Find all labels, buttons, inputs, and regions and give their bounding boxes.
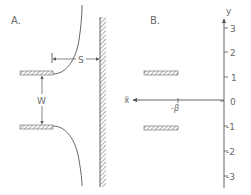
dimension-w: W <box>37 76 46 124</box>
svg-text:3: 3 <box>230 24 236 34</box>
svg-text:-3: -3 <box>226 172 235 182</box>
panel-a: A. S W <box>11 5 106 187</box>
upper-plate-a <box>20 71 53 75</box>
svg-text:0: 0 <box>230 97 236 107</box>
panel-b: B. y 3 2 1 0 -1 -2 -3 x̃ -β <box>124 6 237 188</box>
lower-plate-a <box>20 125 53 129</box>
dimension-w-label: W <box>37 96 46 106</box>
x-axis-label: x̃ <box>124 95 130 105</box>
wall <box>100 17 106 187</box>
panel-b-label: B. <box>150 15 160 26</box>
y-axis-label: y <box>226 6 232 16</box>
panel-a-label: A. <box>11 15 21 26</box>
diagram-canvas: A. S W B. y <box>0 0 251 195</box>
lower-plate-b <box>144 126 178 130</box>
upper-plate-b <box>144 71 178 75</box>
svg-text:2: 2 <box>230 48 236 58</box>
lower-free-streamline <box>53 126 82 186</box>
dimension-s-label: S <box>78 55 84 65</box>
svg-text:1: 1 <box>231 73 237 83</box>
svg-text:-1: -1 <box>226 122 235 132</box>
x-tick-beta-label: -β <box>171 104 179 113</box>
svg-text:-2: -2 <box>226 147 235 157</box>
y-tick-labels: 3 2 1 0 -1 -2 -3 <box>226 24 237 182</box>
